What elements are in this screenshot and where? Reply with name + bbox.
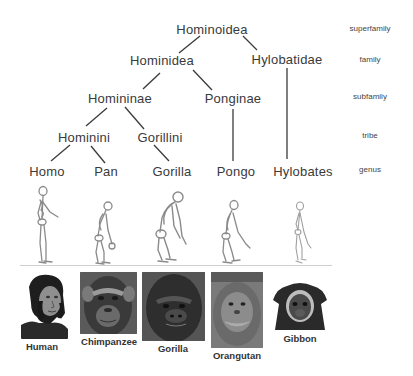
edge-gorillini-gorilla xyxy=(154,145,169,161)
edge-hominoidea-hylobatidae xyxy=(243,36,257,50)
rank-subfamily: subfamily xyxy=(353,92,387,101)
photo-label-chimpanzee: Chimpanzee xyxy=(81,336,137,347)
taxon-hominidea: Hominidea xyxy=(130,53,194,68)
edge-hominini-homo xyxy=(51,145,70,161)
orangutan-face-icon xyxy=(211,272,263,348)
taxon-ponginae: Ponginae xyxy=(205,91,262,106)
skeleton-gorilla-icon xyxy=(150,190,196,266)
gorilla-face-icon xyxy=(142,272,205,341)
rank-superfamily: superfamily xyxy=(350,24,391,33)
skeleton-human-icon xyxy=(30,185,70,267)
skeleton-orangutan-icon xyxy=(216,198,256,266)
taxon-pan: Pan xyxy=(94,164,118,179)
edge-homininae-hominini xyxy=(86,108,107,126)
taxon-gorilla: Gorilla xyxy=(153,164,192,179)
photo-gorilla xyxy=(142,272,205,341)
photo-label-gorilla: Gorilla xyxy=(158,343,188,354)
taxon-hylobatidae: Hylobatidae xyxy=(252,52,323,67)
taxon-gorillini: Gorillini xyxy=(137,130,182,145)
hominoid-taxonomy-diagram: Hominoidea Hominidea Hylobatidae Hominin… xyxy=(0,0,413,376)
edge-homininae-gorillini xyxy=(125,107,144,129)
taxon-hominini: Hominini xyxy=(58,130,110,145)
photo-chimpanzee xyxy=(80,272,137,334)
photo-gibbon xyxy=(273,280,327,330)
photo-human xyxy=(21,273,68,339)
skeleton-chimpanzee-icon xyxy=(88,200,124,266)
edge-hominidea-ponginae xyxy=(193,70,212,90)
photo-label-orangutan: Orangutan xyxy=(213,350,261,361)
rank-tribe: tribe xyxy=(362,131,378,140)
edge-hominini-pan xyxy=(91,146,105,163)
rank-family: family xyxy=(360,55,381,64)
chimpanzee-face-icon xyxy=(80,272,137,334)
photo-label-gibbon: Gibbon xyxy=(283,333,316,344)
taxon-hominoidea: Hominoidea xyxy=(176,22,247,37)
rank-genus: genus xyxy=(359,165,381,174)
human-face-icon xyxy=(21,273,68,339)
photo-orangutan xyxy=(211,272,263,348)
taxon-hylobates: Hylobates xyxy=(273,164,333,179)
taxon-homo: Homo xyxy=(29,164,64,179)
edge-hominidea-homininae xyxy=(143,73,160,89)
photo-label-human: Human xyxy=(26,341,58,352)
edge-hominoidea-hominidea xyxy=(179,36,200,53)
skeleton-gibbon-icon xyxy=(288,200,318,266)
gibbon-face-icon xyxy=(273,280,327,330)
ground-line xyxy=(20,265,332,266)
taxon-pongo: Pongo xyxy=(217,164,256,179)
taxon-homininae: Homininae xyxy=(88,91,152,106)
